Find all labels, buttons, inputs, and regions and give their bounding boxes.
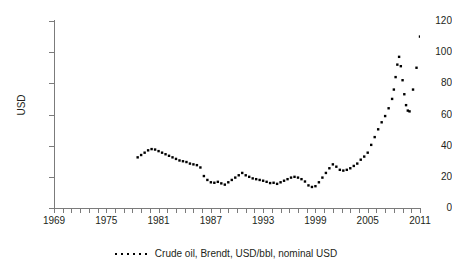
data-point bbox=[283, 180, 285, 182]
x-axis-tick bbox=[315, 209, 316, 213]
data-point bbox=[408, 110, 410, 112]
data-point bbox=[161, 151, 163, 153]
data-point bbox=[300, 178, 302, 180]
chart-legend: Crude oil, Brendt, USD/bbl, nominal USD bbox=[0, 248, 452, 259]
x-axis-tick bbox=[324, 209, 325, 213]
data-point bbox=[401, 79, 403, 81]
x-axis-tick bbox=[106, 209, 107, 213]
data-point bbox=[238, 174, 240, 176]
data-point bbox=[269, 182, 271, 184]
data-point bbox=[241, 172, 243, 174]
x-axis-tick bbox=[289, 209, 290, 213]
x-axis-tick-label: 2011 bbox=[400, 215, 440, 226]
data-point bbox=[286, 178, 288, 180]
data-point bbox=[349, 167, 351, 169]
data-point bbox=[405, 104, 407, 106]
data-point bbox=[213, 182, 215, 184]
legend-dot bbox=[139, 253, 141, 255]
data-point bbox=[147, 149, 149, 151]
x-axis-tick bbox=[124, 209, 125, 213]
x-axis-tick-label: 2005 bbox=[348, 215, 388, 226]
data-point bbox=[403, 93, 405, 95]
data-point bbox=[227, 181, 229, 183]
x-axis-tick bbox=[141, 209, 142, 213]
legend-label: Crude oil, Brendt, USD/bbl, nominal USD bbox=[155, 248, 337, 259]
data-point bbox=[265, 181, 267, 183]
data-point bbox=[360, 158, 362, 160]
data-point bbox=[189, 162, 191, 164]
x-axis-tick bbox=[342, 209, 343, 213]
data-point bbox=[217, 181, 219, 183]
data-point bbox=[255, 178, 257, 180]
data-point bbox=[154, 148, 156, 150]
data-point bbox=[210, 181, 212, 183]
x-axis-tick bbox=[298, 209, 299, 213]
x-axis-tick bbox=[237, 209, 238, 213]
data-point bbox=[346, 169, 348, 171]
data-point bbox=[321, 176, 323, 178]
data-point bbox=[262, 180, 264, 182]
data-point bbox=[150, 148, 152, 150]
legend-dot bbox=[127, 253, 129, 255]
data-series-crude-oil-brendt bbox=[54, 21, 420, 208]
x-axis-tick-label: 1981 bbox=[139, 215, 179, 226]
data-point bbox=[251, 177, 253, 179]
data-point bbox=[185, 161, 187, 163]
data-point bbox=[393, 88, 395, 90]
x-axis-tick bbox=[80, 209, 81, 213]
data-point bbox=[276, 183, 278, 185]
data-point bbox=[394, 76, 396, 78]
data-point bbox=[164, 153, 166, 155]
x-axis-tick bbox=[281, 209, 282, 213]
data-point bbox=[171, 156, 173, 158]
x-axis-tick bbox=[376, 209, 377, 213]
data-point bbox=[178, 159, 180, 161]
data-point bbox=[335, 166, 337, 168]
x-axis-tick bbox=[359, 209, 360, 213]
x-axis-tick bbox=[263, 209, 264, 213]
x-axis-tick bbox=[333, 209, 334, 213]
data-point bbox=[157, 150, 159, 152]
data-point bbox=[367, 151, 369, 153]
data-point bbox=[398, 56, 400, 58]
data-point bbox=[325, 172, 327, 174]
data-point bbox=[314, 185, 316, 187]
x-axis-tick bbox=[228, 209, 229, 213]
data-point bbox=[342, 169, 344, 171]
legend-dot bbox=[145, 253, 147, 255]
data-point bbox=[356, 162, 358, 164]
legend-dot bbox=[121, 253, 123, 255]
data-point bbox=[231, 179, 233, 181]
data-point bbox=[377, 128, 379, 130]
chart-container: USD 020406080100120 19691975198119871993… bbox=[0, 0, 452, 270]
x-axis-tick bbox=[254, 209, 255, 213]
data-point bbox=[192, 163, 194, 165]
x-axis-tick bbox=[350, 209, 351, 213]
x-axis-tick bbox=[167, 209, 168, 213]
x-axis-tick-label: 1987 bbox=[191, 215, 231, 226]
x-axis-tick bbox=[150, 209, 151, 213]
data-point bbox=[143, 151, 145, 153]
data-point bbox=[396, 63, 398, 65]
x-axis-tick bbox=[63, 209, 64, 213]
data-point bbox=[370, 144, 372, 146]
x-axis-tick bbox=[202, 209, 203, 213]
data-point bbox=[400, 65, 402, 67]
data-point bbox=[175, 158, 177, 160]
data-point bbox=[297, 176, 299, 178]
data-point bbox=[203, 175, 205, 177]
x-axis-tick bbox=[220, 209, 221, 213]
x-axis-tick bbox=[115, 209, 116, 213]
data-point bbox=[220, 182, 222, 184]
data-point bbox=[415, 67, 417, 69]
data-point bbox=[272, 182, 274, 184]
x-axis-tick bbox=[176, 209, 177, 213]
data-point bbox=[293, 176, 295, 178]
x-axis-tick bbox=[272, 209, 273, 213]
x-axis-tick bbox=[211, 209, 212, 213]
x-axis-tick bbox=[307, 209, 308, 213]
legend-dot bbox=[133, 253, 135, 255]
data-point bbox=[279, 181, 281, 183]
data-point bbox=[307, 184, 309, 186]
data-point bbox=[311, 186, 313, 188]
